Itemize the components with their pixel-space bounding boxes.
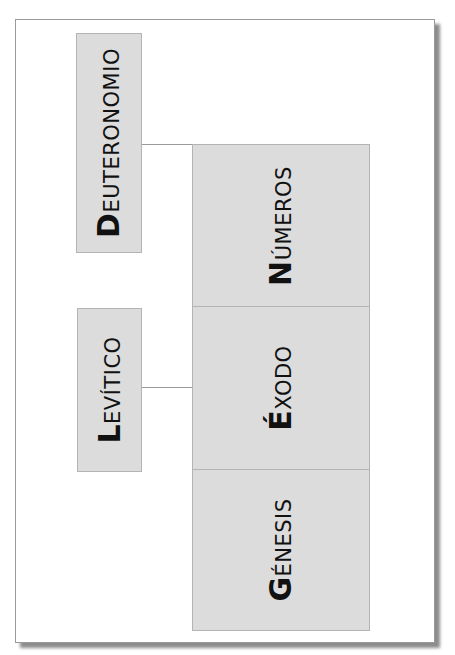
connector-deuteronomio-numeros: [142, 144, 192, 145]
label-levitico: LEVÍTICO: [95, 336, 125, 443]
connector-levitico-exodo: [142, 387, 192, 388]
box-genesis: GÉNESIS: [192, 469, 370, 631]
box-exodo: ÉXODO: [192, 306, 370, 470]
label-rest: ÚMEROS: [272, 166, 296, 260]
label-deuteronomio: DEUTERONOMIO: [94, 48, 124, 238]
label-rest: EUTERONOMIO: [100, 48, 124, 212]
label-numeros: NÚMEROS: [266, 166, 296, 286]
box-numeros: NÚMEROS: [192, 144, 370, 307]
label-genesis: GÉNESIS: [266, 498, 296, 601]
label-rest: XODO: [272, 345, 296, 409]
label-exodo: ÉXODO: [266, 345, 296, 430]
label-cap: G: [263, 576, 298, 601]
label-cap: N: [263, 260, 298, 286]
label-rest: EVÍTICO: [101, 336, 125, 424]
box-deuteronomio: DEUTERONOMIO: [76, 33, 142, 253]
label-rest: ÉNESIS: [272, 498, 296, 576]
label-cap: É: [263, 410, 298, 431]
box-levitico: LEVÍTICO: [77, 308, 142, 472]
label-cap: D: [91, 213, 126, 238]
label-cap: L: [92, 424, 127, 444]
